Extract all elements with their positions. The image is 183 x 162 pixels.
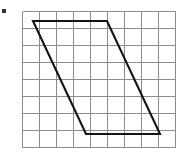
corner-dot-marker [2,9,6,13]
figure-background [0,0,183,162]
figure-canvas [0,0,183,162]
parallelogram-grid-figure [0,0,183,162]
